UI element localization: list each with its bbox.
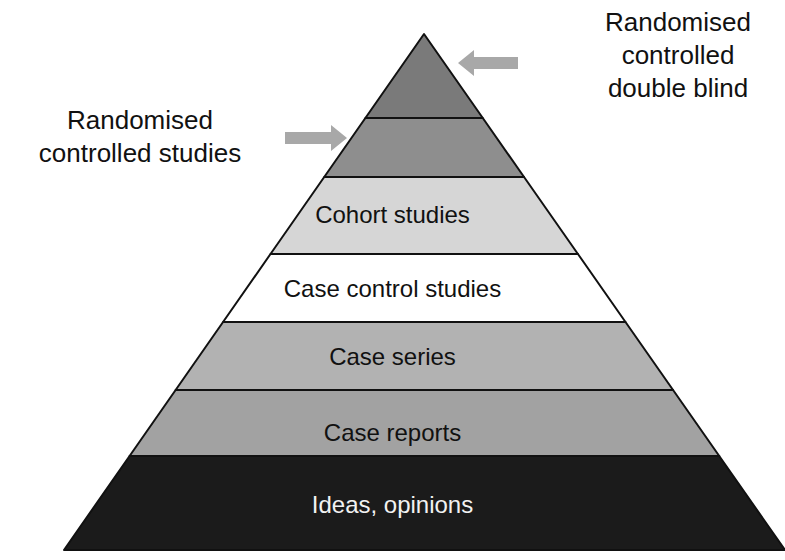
level-label-case-reports: Case reports	[0, 421, 785, 445]
level-label-cohort-studies: Cohort studies	[0, 203, 785, 227]
annotation-line: Randomised	[578, 6, 778, 39]
level-label-ideas-opinions: Ideas, opinions	[0, 493, 785, 517]
pyramid-level-1	[365, 34, 482, 118]
annotation-line: Randomised	[10, 104, 270, 137]
pyramid-level-2	[324, 118, 524, 177]
annotation-rct: Randomised controlled studies	[10, 104, 270, 170]
annotation-line: controlled studies	[10, 137, 270, 170]
annotation-line: double blind	[578, 72, 778, 105]
level-label-case-control-studies: Case control studies	[0, 277, 785, 301]
arrow-icon	[458, 50, 518, 76]
annotation-line: controlled	[578, 39, 778, 72]
annotation-rct-double-blind: Randomised controlled double blind	[578, 6, 778, 105]
level-label-case-series: Case series	[0, 345, 785, 369]
arrow-icon	[285, 125, 347, 151]
